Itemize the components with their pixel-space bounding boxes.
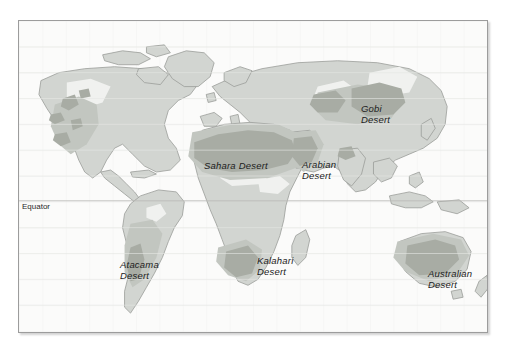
map-label-kalahari-desert: KalahariDesert — [257, 256, 293, 277]
map-label-sahara-desert: Sahara Desert — [204, 161, 268, 172]
label-line-2: Desert — [428, 279, 457, 290]
label-line-2: Desert — [257, 266, 286, 277]
label-line-1: Gobi — [361, 103, 382, 114]
map-label-gobi-desert: GobiDesert — [361, 104, 390, 125]
label-line-2: Desert — [302, 170, 331, 181]
map-label-australian-desert: AustralianDesert — [428, 269, 472, 290]
map-label-atacama-desert: AtacamaDesert — [120, 260, 159, 281]
map-frame: Equator Sahara Desert ArabianDesert Gobi… — [18, 20, 488, 333]
world-map-graphic — [19, 21, 487, 332]
label-line-1: Kalahari — [257, 255, 293, 266]
label-line-1: Atacama — [120, 259, 159, 270]
label-line-2: Desert — [120, 270, 149, 281]
landmass-british-isles — [206, 93, 216, 103]
label-line-2: Desert — [361, 114, 390, 125]
equator-label: Equator — [22, 202, 50, 211]
label-line-1: Australian — [428, 268, 472, 279]
landmass-tasmania — [451, 289, 463, 299]
map-label-arabian-desert: ArabianDesert — [302, 160, 336, 181]
label-line-1: Arabian — [302, 159, 336, 170]
label-line-1: Sahara Desert — [204, 160, 268, 171]
world-desert-map-figure: Equator Sahara Desert ArabianDesert Gobi… — [0, 0, 507, 351]
